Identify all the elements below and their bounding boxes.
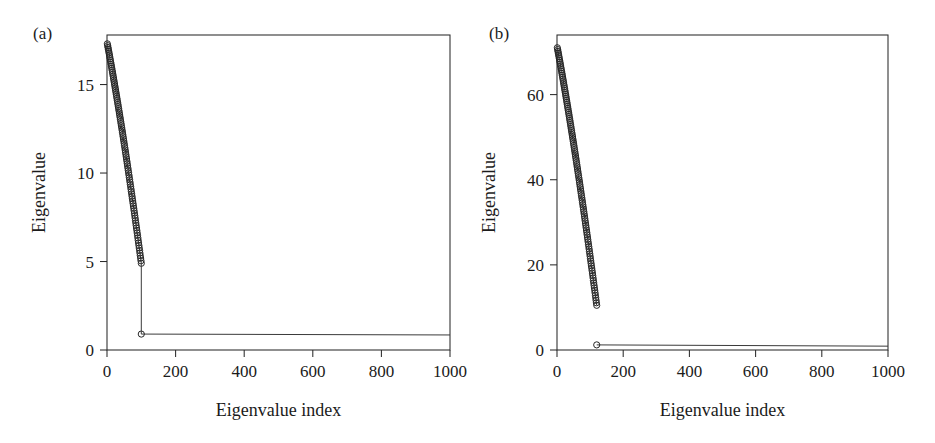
x-tick-label: 800 <box>809 362 835 381</box>
y-tick-label: 10 <box>77 164 94 183</box>
x-tick-label: 600 <box>300 362 326 381</box>
x-tick-label: 600 <box>743 362 769 381</box>
x-tick-label: 0 <box>553 362 562 381</box>
x-tick-label: 800 <box>369 362 395 381</box>
noise-floor-line <box>141 334 450 335</box>
y-tick-label: 15 <box>77 76 94 95</box>
x-tick-label: 0 <box>103 362 112 381</box>
y-axis-title: Eigenvalue <box>479 152 499 233</box>
y-tick-label: 5 <box>86 253 95 272</box>
y-axis-title: Eigenvalue <box>29 152 49 233</box>
y-tick-label: 20 <box>527 256 544 275</box>
panel-b-plot: 020040060080010000204060Eigenvalue index… <box>467 0 935 443</box>
panel-a: (a) 02004006008001000051015Eigenvalue in… <box>0 0 468 443</box>
y-tick-label: 60 <box>527 86 544 105</box>
plot-frame <box>107 35 450 350</box>
x-tick-label: 200 <box>163 362 189 381</box>
y-tick-label: 0 <box>536 341 545 360</box>
y-tick-label: 0 <box>86 341 95 360</box>
panel-a-plot: 02004006008001000051015Eigenvalue indexE… <box>0 0 468 443</box>
x-axis-title: Eigenvalue index <box>660 400 785 420</box>
x-axis-title: Eigenvalue index <box>216 400 341 420</box>
x-tick-label: 400 <box>231 362 257 381</box>
noise-floor-line <box>597 345 888 346</box>
x-tick-label: 200 <box>610 362 636 381</box>
y-tick-label: 40 <box>527 171 544 190</box>
panel-b: (b) 020040060080010000204060Eigenvalue i… <box>467 0 935 443</box>
plot-frame <box>557 35 888 350</box>
x-tick-label: 1000 <box>871 362 905 381</box>
scree-plot-figure: (a) 02004006008001000051015Eigenvalue in… <box>0 0 935 443</box>
x-tick-label: 400 <box>677 362 703 381</box>
x-tick-label: 1000 <box>433 362 467 381</box>
